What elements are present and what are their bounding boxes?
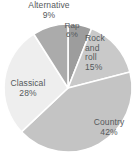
slice-label-rock-and-roll: Rock and roll 15% [85,34,121,72]
slice-label-rap: Rap 6% [61,21,83,39]
slice-label-country-pct: 42% [84,128,134,138]
slice-label-classical: Classical 28% [2,79,54,98]
slice-label-rock-line1: Rock [85,33,105,43]
slice-label-rap-pct: 6% [61,30,83,39]
slice-label-alternative-name: Alternative [28,0,69,10]
slice-label-rap-name: Rap [65,21,80,30]
slice-label-classical-pct: 28% [2,89,54,99]
slice-label-country: Country 42% [84,118,134,137]
slice-label-country-name: Country [94,117,124,127]
slice-label-alternative: Alternative 9% [21,1,77,20]
slice-label-alternative-pct: 9% [21,11,77,21]
slice-label-rock-pct: 15% [85,63,121,73]
slice-label-classical-name: Classical [11,78,46,88]
pie-chart-screenshot: Alternative 9% Rap 6% Rock and roll 15% … [0,0,140,166]
